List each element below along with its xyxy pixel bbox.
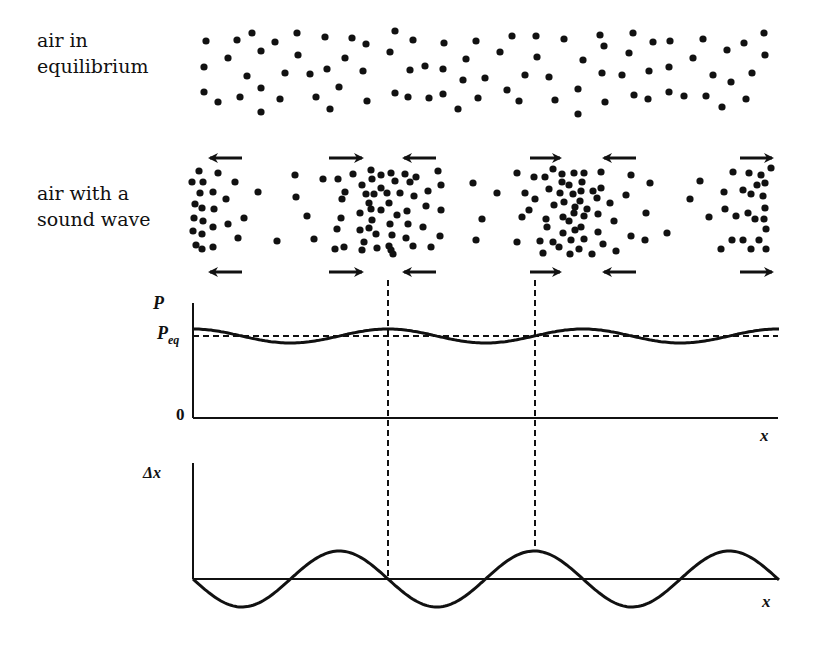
air-molecule [403, 207, 410, 214]
air-molecule [306, 70, 313, 77]
air-molecule [363, 97, 370, 104]
air-molecule [577, 187, 584, 194]
air-molecule [597, 168, 604, 175]
air-molecule [717, 245, 724, 252]
air-molecule [567, 236, 574, 243]
air-molecule [598, 69, 605, 76]
air-molecule [340, 243, 347, 250]
air-molecule [515, 97, 522, 104]
air-molecule [404, 220, 411, 227]
air-molecule [192, 241, 199, 248]
air-molecule [439, 65, 446, 72]
air-molecule [630, 91, 637, 98]
air-molecule [462, 55, 469, 62]
p-eq-main: P [157, 323, 168, 343]
air-molecule [348, 34, 355, 41]
air-molecule [663, 229, 670, 236]
air-molecule [377, 171, 384, 178]
air-molecule [209, 243, 216, 250]
air-molecule [493, 189, 500, 196]
air-molecule [575, 245, 582, 252]
air-molecule [745, 169, 752, 176]
air-molecule [281, 69, 288, 76]
air-molecule [474, 94, 481, 101]
air-molecule [558, 170, 565, 177]
air-molecule [762, 245, 769, 252]
air-molecule [409, 36, 416, 43]
air-molecule [391, 27, 398, 34]
air-molecule [257, 47, 264, 54]
air-molecule [234, 234, 241, 241]
air-molecule [513, 169, 520, 176]
air-molecule [583, 205, 590, 212]
air-molecule [709, 71, 716, 78]
air-molecule [748, 69, 755, 76]
air-molecule [334, 175, 341, 182]
air-molecule [386, 220, 393, 227]
air-molecule [271, 38, 278, 45]
air-molecule [718, 103, 725, 110]
air-molecule [580, 212, 587, 219]
air-molecule [198, 204, 205, 211]
air-molecule [331, 245, 338, 252]
air-molecule [459, 76, 466, 83]
air-molecule [406, 66, 413, 73]
air-molecule [377, 184, 384, 191]
air-molecule [747, 245, 754, 252]
air-molecule [472, 37, 479, 44]
air-molecule [368, 216, 375, 223]
air-molecule [518, 213, 525, 220]
air-molecule [739, 186, 746, 193]
air-molecule [254, 188, 261, 195]
air-molecule [291, 171, 298, 178]
air-molecule [191, 200, 198, 207]
air-molecule [755, 236, 762, 243]
pressure-y-label: P [153, 293, 164, 314]
air-molecule [469, 179, 476, 186]
air-molecule [248, 29, 255, 36]
air-molecule [189, 227, 196, 234]
air-molecule [391, 177, 398, 184]
air-molecule [236, 93, 243, 100]
air-molecule [472, 236, 479, 243]
air-molecule [569, 190, 576, 197]
air-molecule [699, 35, 706, 42]
air-molecule [393, 211, 400, 218]
air-molecule [422, 202, 429, 209]
air-molecule [190, 214, 197, 221]
air-molecule [649, 38, 656, 45]
air-molecule [202, 37, 209, 44]
air-molecule [600, 42, 607, 49]
air-molecule [550, 201, 557, 208]
air-molecule [551, 96, 558, 103]
pressure-x-label: x [760, 426, 769, 446]
air-molecule [606, 199, 613, 206]
air-molecule [303, 212, 310, 219]
air-molecule [665, 88, 672, 95]
air-molecule [580, 235, 587, 242]
air-molecule [702, 92, 709, 99]
air-molecule [723, 46, 730, 53]
air-molecule [559, 213, 566, 220]
p-eq-sub: eq [168, 333, 179, 347]
air-molecule [610, 217, 617, 224]
air-molecule [760, 215, 767, 222]
air-molecule [198, 230, 205, 237]
air-molecule [199, 178, 206, 185]
air-molecule [629, 29, 636, 36]
air-molecule [196, 189, 203, 196]
air-molecule [195, 167, 202, 174]
air-molecule [530, 173, 537, 180]
air-molecule [478, 215, 485, 222]
air-molecule [333, 225, 340, 232]
air-molecule [625, 49, 632, 56]
pressure-plot [193, 303, 779, 418]
air-molecule [440, 39, 447, 46]
air-molecule [757, 171, 764, 178]
air-molecule [368, 175, 375, 182]
air-molecule [367, 205, 374, 212]
air-molecule [644, 95, 651, 102]
air-molecule [760, 29, 767, 36]
air-molecule [437, 206, 444, 213]
air-molecule [387, 169, 394, 176]
